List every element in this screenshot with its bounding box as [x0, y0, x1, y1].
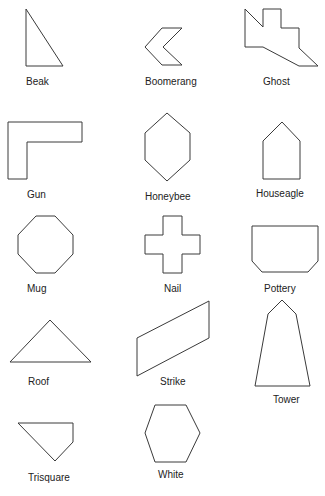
beak-polygon: [26, 9, 63, 66]
strike-label: Strike: [160, 376, 186, 387]
houseagle-polygon: [263, 122, 300, 179]
shape-roof: Roof: [10, 320, 91, 387]
nail-label: Nail: [164, 283, 181, 294]
beak-label: Beak: [26, 76, 50, 87]
houseagle-label: Houseagle: [256, 188, 304, 199]
mug-label: Mug: [27, 283, 46, 294]
honeybee-polygon: [145, 113, 190, 181]
boomerang-polygon: [145, 28, 182, 65]
shape-gun: Gun: [8, 122, 82, 200]
mug-polygon: [18, 216, 73, 273]
shape-strike: Strike: [137, 301, 209, 387]
shape-ghost: Ghost: [245, 9, 318, 87]
roof-polygon: [10, 320, 91, 362]
shape-beak: Beak: [26, 9, 63, 87]
nail-polygon: [145, 216, 200, 273]
honeybee-label: Honeybee: [145, 191, 191, 202]
pottery-polygon: [252, 226, 318, 272]
shape-boomerang: Boomerang: [145, 28, 197, 87]
boomerang-label: Boomerang: [145, 76, 197, 87]
roof-label: Roof: [28, 376, 49, 387]
ghost-polygon: [245, 9, 318, 66]
shape-white: White: [145, 405, 200, 480]
shape-nail: Nail: [145, 216, 200, 294]
strike-polygon: [137, 301, 209, 376]
trisquare-polygon: [18, 423, 73, 461]
white-label: White: [158, 469, 184, 480]
shape-trisquare: Trisquare: [18, 423, 73, 483]
gun-polygon: [8, 122, 82, 179]
tower-polygon: [255, 300, 310, 386]
trisquare-label: Trisquare: [28, 472, 70, 483]
shape-diagram: Beak Boomerang Ghost Gun Honeybee Housea…: [0, 0, 325, 496]
gun-label: Gun: [27, 189, 46, 200]
shape-mug: Mug: [18, 216, 73, 294]
ghost-label: Ghost: [263, 76, 290, 87]
shape-tower: Tower: [255, 300, 310, 405]
pottery-label: Pottery: [264, 283, 296, 294]
white-polygon: [145, 405, 200, 462]
shape-honeybee: Honeybee: [145, 113, 191, 202]
shape-pottery: Pottery: [252, 226, 318, 294]
tower-label: Tower: [273, 394, 300, 405]
shape-houseagle: Houseagle: [256, 122, 304, 199]
